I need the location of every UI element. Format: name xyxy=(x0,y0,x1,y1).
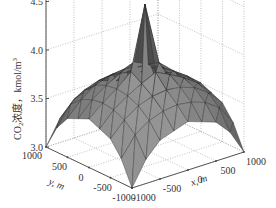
y-axis-label: y, m xyxy=(46,175,66,192)
y-tick xyxy=(45,146,47,148)
y-tick-label: 0 xyxy=(79,172,84,183)
z-axis-label: CO2浓度，kmol/m3 xyxy=(11,57,25,140)
surface-facet xyxy=(46,118,60,147)
z-tick-label: 3.5 xyxy=(31,93,44,104)
x-tick-label: -1000 xyxy=(132,192,155,203)
x-tick xyxy=(187,169,189,171)
surface-facet xyxy=(230,123,244,152)
x-tick xyxy=(131,187,133,189)
y-tick xyxy=(110,177,112,179)
x-tick xyxy=(159,178,161,180)
x-tick xyxy=(243,151,245,153)
x-tick-label: -500 xyxy=(163,183,181,194)
z-tick-label: 4.0 xyxy=(31,45,44,56)
x-axis-label: x, m xyxy=(188,172,208,188)
x-tick-label: 1000 xyxy=(246,156,266,167)
x-tick-label: 500 xyxy=(221,165,236,176)
z-tick-label: 4.5 xyxy=(31,0,44,7)
y-tick xyxy=(67,156,69,158)
y-tick xyxy=(88,167,90,169)
y-tick-label: 500 xyxy=(52,161,67,172)
surface-plot: 3.03.54.04.55.0 5000-500-10001000 -1000-… xyxy=(0,0,276,208)
x-tick xyxy=(215,160,217,162)
y-axis-ticks: 5000-500-10001000 xyxy=(22,146,136,203)
y-tick-label: -500 xyxy=(93,182,111,193)
y-tick-label: 1000 xyxy=(22,150,42,161)
